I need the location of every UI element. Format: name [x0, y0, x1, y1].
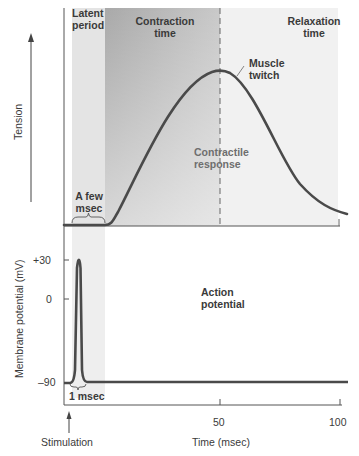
- ytick-plus30: +30: [33, 254, 51, 266]
- ytick-minus90: –90: [38, 376, 56, 388]
- time-axis-label: Time (msec): [192, 436, 250, 448]
- few-msec-label: A few msec: [70, 190, 108, 214]
- relaxation-time-label: Relaxation time: [279, 15, 349, 39]
- xtick-100: 100: [329, 416, 347, 428]
- action-potential-label: Action potential: [201, 286, 245, 310]
- muscle-twitch-label: Muscle twitch: [249, 57, 285, 81]
- latent-period-label: Latent period: [72, 7, 104, 31]
- tension-axis-label: Tension: [12, 104, 24, 140]
- action-potential-trace: [64, 260, 348, 383]
- contractile-response-label: Contractile response: [194, 146, 249, 170]
- xtick-50: 50: [213, 416, 225, 428]
- stimulation-label: Stimulation: [41, 436, 93, 448]
- membrane-potential-axis-label: Membrane potential (mV): [13, 260, 25, 378]
- relaxation-time-region: [220, 8, 338, 226]
- ytick-0: 0: [46, 293, 52, 305]
- contraction-time-label: Contraction time: [130, 15, 200, 39]
- one-msec-label: 1 msec: [69, 390, 105, 402]
